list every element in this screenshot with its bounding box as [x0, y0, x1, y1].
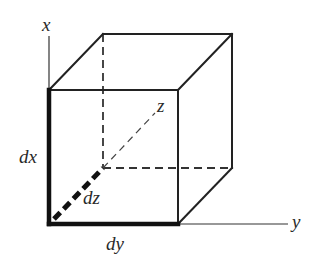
- y-axis-label: y: [290, 211, 301, 232]
- dy-label: dy: [106, 233, 125, 254]
- z-axis: [103, 113, 155, 168]
- z-axis-label: z: [156, 95, 165, 116]
- dz-label: dz: [83, 187, 101, 208]
- volume-element-diagram: x y z dx dy dz: [0, 0, 324, 272]
- dx-label: dx: [19, 146, 38, 167]
- x-axis-label: x: [41, 14, 51, 35]
- top-right-depth-edge: [178, 34, 232, 90]
- bottom-right-depth-edge: [178, 168, 232, 224]
- top-left-depth-edge: [49, 34, 103, 90]
